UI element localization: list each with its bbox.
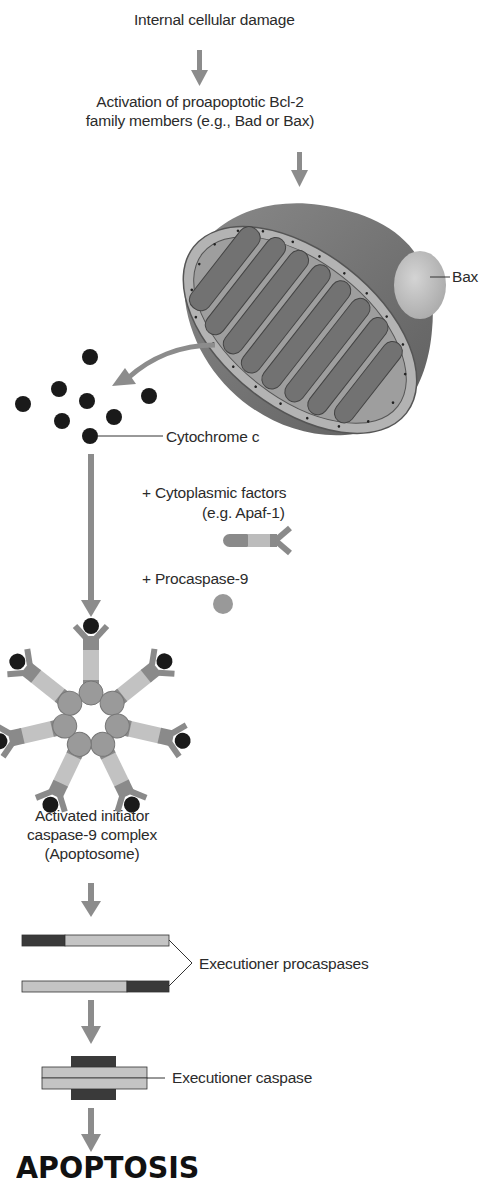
label-bax: Bax [452,267,478,286]
label-executioner-caspase: Executioner caspase [172,1068,312,1087]
arrow-down-icon [291,152,308,187]
arrow-down-icon [191,50,208,86]
executioner-caspase-illustration [42,1056,165,1100]
label-activation-line1: Activation of proapoptotic Bcl-2 [84,92,316,111]
label-activation: Activation of proapoptotic Bcl-2 family … [84,92,316,130]
label-apoptosis-outcome: APOPTOSIS [16,1150,199,1182]
apoptosome-illustration [0,618,194,819]
procaspase-9-icon [213,594,233,614]
label-internal-damage: Internal cellular damage [134,10,295,29]
cytochrome-c-molecules [15,349,157,444]
label-apoptosome-line2: caspase-9 complex [0,825,184,844]
apaf-1-icon [223,528,290,553]
label-cytoplasmic-factors: + Cytoplasmic factors [142,483,286,502]
arrow-down-icon [81,1108,101,1152]
bracket-icon [169,940,192,986]
label-apoptosome-line1: Activated initiator [0,806,184,825]
label-activation-line2: family members (e.g., Bad or Bax) [84,111,316,130]
label-procaspase-9: + Procaspase-9 [142,569,248,588]
label-executioner-procaspases: Executioner procaspases [199,954,368,973]
label-apaf-1: (e.g. Apaf-1) [202,503,285,522]
release-arrow-icon [112,345,215,386]
arrow-down-icon [81,883,101,917]
arrow-down-icon [81,454,101,617]
bax-protein [394,251,446,319]
arrow-down-icon [81,1000,101,1044]
label-apoptosome-line3: (Apoptosome) [0,844,184,863]
executioner-procaspases-illustration [22,935,192,992]
label-cytochrome-c: Cytochrome c [166,427,259,446]
label-apoptosome: Activated initiator caspase-9 complex (A… [0,806,184,863]
